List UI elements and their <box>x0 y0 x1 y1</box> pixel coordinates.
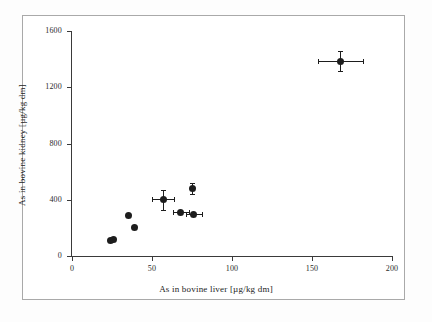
x-tick-mark <box>72 257 73 261</box>
error-bar-cap <box>173 210 174 215</box>
data-point-marker <box>125 212 132 219</box>
y-tick-label: 1600 <box>28 26 62 35</box>
error-bar-cap <box>161 190 166 191</box>
x-tick-mark <box>152 257 153 261</box>
x-tick-mark <box>312 257 313 261</box>
error-bar-cap <box>318 59 319 64</box>
x-tick-label: 50 <box>137 264 167 273</box>
error-bar-cap <box>186 212 187 217</box>
error-bar-cap <box>202 212 203 217</box>
error-bar-cap <box>161 210 166 211</box>
data-point-marker <box>110 236 117 243</box>
figure: 040080012001600050100150200 As in bovine… <box>0 0 432 322</box>
error-bar-cap <box>190 194 195 195</box>
y-tick-label: 800 <box>28 139 62 148</box>
y-axis-title: As in bovine kidney [µg/kg dm] <box>17 35 27 255</box>
data-point-marker <box>160 196 167 203</box>
error-bar-cap <box>190 183 195 184</box>
error-bar-cap <box>363 59 364 64</box>
y-tick-label: 400 <box>28 195 62 204</box>
y-tick-mark <box>67 256 71 257</box>
y-tick-label: 0 <box>28 251 62 260</box>
y-axis-spine <box>71 31 72 257</box>
y-tick-mark <box>67 31 71 32</box>
error-bar-cap <box>338 71 343 72</box>
error-bar-cap <box>338 51 343 52</box>
y-tick-label: 1200 <box>28 82 62 91</box>
y-tick-mark <box>67 144 71 145</box>
data-point-marker <box>337 58 344 65</box>
error-bar-cap <box>152 197 153 202</box>
error-bar-cap <box>174 197 175 202</box>
y-tick-mark <box>67 87 71 88</box>
figure-frame <box>22 15 405 300</box>
x-tick-label: 150 <box>297 264 327 273</box>
data-point-marker <box>131 224 138 231</box>
x-tick-mark <box>232 257 233 261</box>
x-axis-title: As in bovine liver [µg/kg dm] <box>0 284 432 294</box>
data-point-marker <box>189 185 196 192</box>
y-tick-mark <box>67 200 71 201</box>
x-tick-label: 0 <box>57 264 87 273</box>
x-tick-label: 100 <box>217 264 247 273</box>
x-tick-mark <box>392 257 393 261</box>
x-tick-label: 200 <box>377 264 407 273</box>
